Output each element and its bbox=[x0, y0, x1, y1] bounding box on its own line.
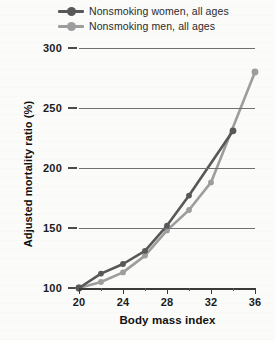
x-tick-label-36: 36 bbox=[249, 296, 262, 308]
plot-area bbox=[79, 48, 255, 288]
data-point bbox=[186, 193, 192, 199]
x-tick-minor-22 bbox=[101, 288, 102, 291]
chart-legend: Nonsmoking women, all ages Nonsmoking me… bbox=[58, 4, 273, 34]
legend-item-men: Nonsmoking men, all ages bbox=[58, 19, 273, 34]
x-tick-label-32: 32 bbox=[205, 296, 218, 308]
data-point bbox=[120, 270, 126, 276]
y-tick-150 bbox=[68, 227, 77, 229]
data-point bbox=[98, 271, 104, 277]
gridline-200 bbox=[79, 168, 255, 169]
data-point bbox=[230, 127, 237, 134]
x-tick-label-28: 28 bbox=[161, 296, 174, 308]
x-tick-32 bbox=[211, 288, 212, 294]
x-tick-20 bbox=[79, 288, 80, 294]
x-axis-title: Body mass index bbox=[79, 314, 256, 326]
gridline-250 bbox=[79, 108, 255, 109]
data-point bbox=[142, 248, 148, 254]
y-tick-200 bbox=[68, 167, 77, 169]
x-tick-label-24: 24 bbox=[117, 296, 130, 308]
mortality-bmi-line-chart: Nonsmoking women, all ages Nonsmoking me… bbox=[0, 0, 275, 340]
data-point bbox=[252, 69, 259, 76]
y-tick-300 bbox=[68, 47, 77, 49]
data-point bbox=[98, 279, 104, 285]
y-tick-250 bbox=[68, 107, 77, 109]
data-point bbox=[120, 261, 126, 267]
legend-label-men: Nonsmoking men, all ages bbox=[89, 21, 215, 32]
x-tick-28 bbox=[167, 288, 168, 294]
legend-marker-women-icon bbox=[58, 6, 84, 17]
x-tick-minor-26 bbox=[145, 288, 146, 291]
x-tick-36 bbox=[255, 288, 256, 294]
x-tick-minor-34 bbox=[233, 288, 234, 291]
gridline-150 bbox=[79, 228, 255, 229]
series-line-men bbox=[79, 72, 255, 288]
x-tick-24 bbox=[123, 288, 124, 294]
legend-marker-men-icon bbox=[58, 21, 84, 32]
data-point bbox=[208, 180, 214, 186]
legend-item-women: Nonsmoking women, all ages bbox=[58, 4, 273, 19]
data-point bbox=[186, 207, 192, 213]
legend-label-women: Nonsmoking women, all ages bbox=[89, 6, 229, 17]
y-tick-label-100: 100 bbox=[0, 282, 62, 294]
x-tick-minor-30 bbox=[189, 288, 190, 291]
y-axis-title: Adjusted mortality ratio (%) bbox=[22, 84, 34, 264]
y-tick-label-300: 300 bbox=[0, 42, 62, 54]
series-line-women bbox=[79, 131, 233, 288]
x-tick-label-20: 20 bbox=[73, 296, 86, 308]
gridline-300 bbox=[79, 48, 255, 49]
